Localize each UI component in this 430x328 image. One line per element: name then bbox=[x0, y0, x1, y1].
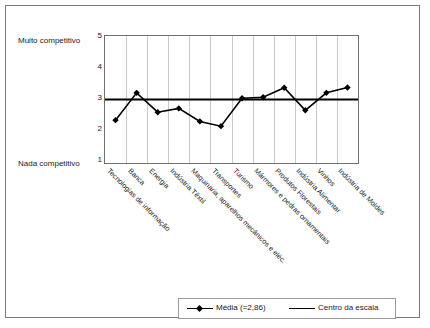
chart-legend: Média (=2,86) Centro da escala bbox=[178, 298, 396, 319]
legend-marker-diamond-icon bbox=[187, 304, 213, 313]
legend-label-mean: Média (=2,86) bbox=[216, 303, 266, 313]
legend-marker-line-icon bbox=[289, 304, 315, 313]
y-axis: 5 4 3 2 1 bbox=[66, 6, 102, 193]
legend-item-center: Centro da escala bbox=[289, 303, 378, 313]
data-point-marker bbox=[344, 84, 350, 90]
y-tick-4: 4 bbox=[72, 63, 102, 71]
series-layer bbox=[105, 36, 358, 163]
y-tick-1: 1 bbox=[72, 156, 102, 164]
legend-label-center: Centro da escala bbox=[318, 303, 378, 313]
y-tick-3: 3 bbox=[72, 94, 102, 102]
x-axis-labels: Tecnologias de informaçãoBancaEnergiaInd… bbox=[104, 164, 374, 274]
plot-area bbox=[104, 35, 359, 164]
x-axis-label: Energia bbox=[147, 167, 170, 190]
chart-frame: Muito competitivo Nada competitivo 5 4 3… bbox=[5, 5, 420, 318]
y-tick-2: 2 bbox=[72, 125, 102, 133]
series-line-media bbox=[116, 87, 348, 126]
x-axis-label: Indústria de Moldes bbox=[337, 167, 387, 217]
y-tick-5: 5 bbox=[72, 32, 102, 40]
legend-item-mean: Média (=2,86) bbox=[187, 303, 266, 313]
